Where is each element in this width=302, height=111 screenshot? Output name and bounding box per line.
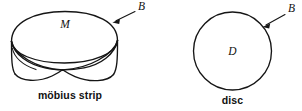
mobius-caption: möbius strip — [38, 89, 102, 101]
topology-figure: M B möbius strip D B disc — [0, 0, 302, 111]
mobius-arrow-head — [112, 19, 120, 24]
mobius-boundary-label: B — [138, 0, 145, 12]
disc-boundary-pointer — [262, 15, 285, 29]
disc-surface-label: D — [227, 45, 237, 57]
figure-canvas: M B möbius strip D B disc — [0, 0, 302, 111]
mobius-bottom-outer-edge — [15, 70, 114, 81]
disc-arrow-shaft — [266, 15, 285, 26]
mobius-boundary-pointer — [112, 12, 135, 24]
disc-boundary-label: B — [288, 2, 295, 14]
mobius-arrow-shaft — [116, 12, 135, 21]
disc-caption: disc — [222, 94, 243, 106]
mobius-surface-label: M — [59, 18, 71, 30]
